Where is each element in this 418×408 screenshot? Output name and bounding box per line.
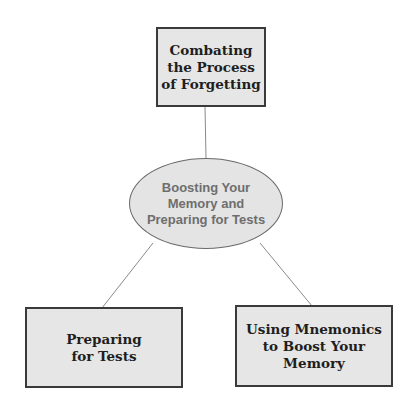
- node-using-mnemonics: Using Mnemonics to Boost Your Memory: [235, 305, 393, 387]
- node-combating-forgetting: Combating the Process of Forgetting: [156, 27, 266, 107]
- node-label: Preparing for Tests: [66, 331, 142, 365]
- node-label: Combating the Process of Forgetting: [161, 42, 260, 93]
- central-node-boosting-memory: Boosting Your Memory and Preparing for T…: [129, 158, 283, 249]
- central-node-label: Boosting Your Memory and Preparing for T…: [147, 180, 265, 228]
- node-label: Using Mnemonics to Boost Your Memory: [246, 321, 382, 372]
- connector-center-to-bottom-left: [102, 243, 153, 308]
- node-preparing-for-tests: Preparing for Tests: [25, 307, 183, 388]
- connector-center-to-top: [205, 106, 206, 158]
- connector-center-to-bottom-right: [260, 243, 312, 306]
